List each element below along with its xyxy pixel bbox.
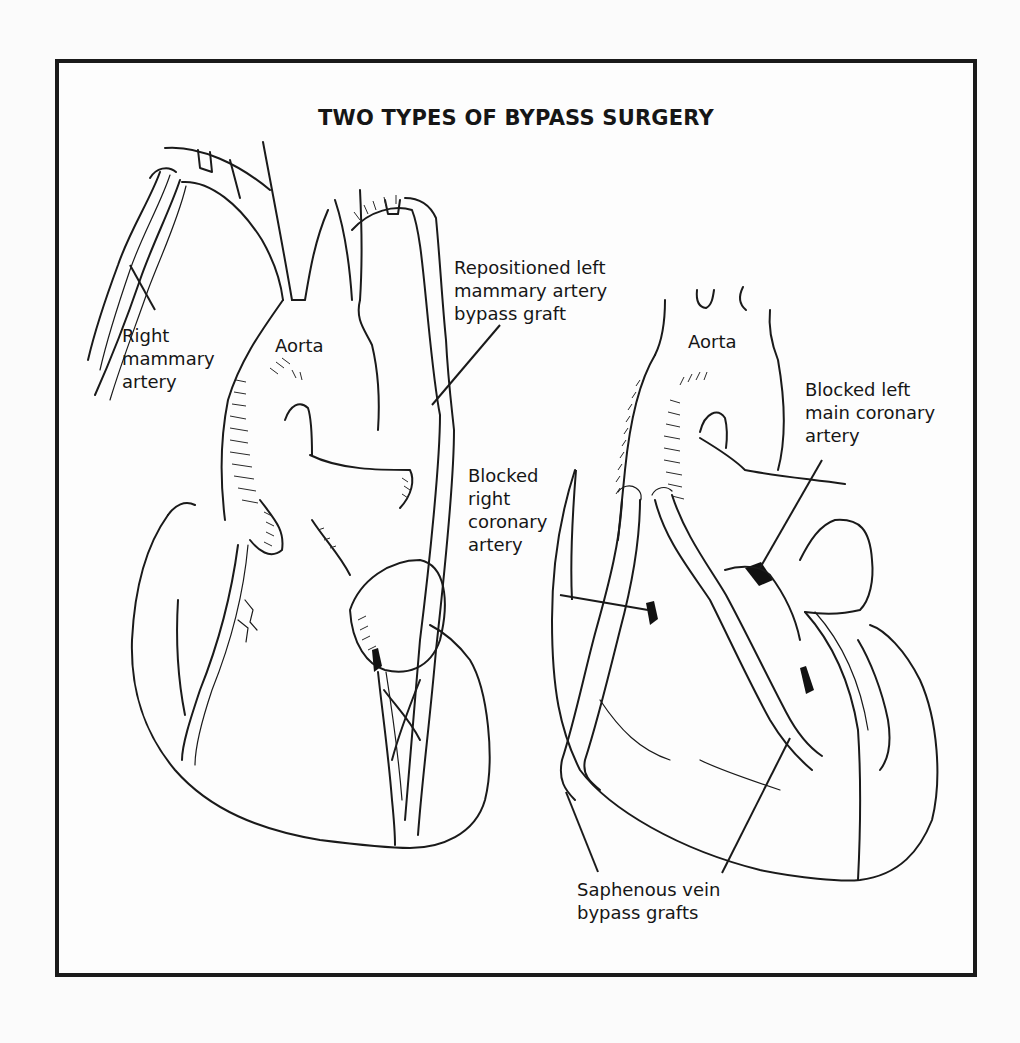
right-heart-drawing [552,287,937,881]
label-right-mammary-artery: Right mammary artery [122,324,215,393]
left-mammary-graft-drawing [352,195,454,835]
label-aorta-right: Aorta [688,330,737,353]
leader-saphenous-1 [566,792,598,872]
leader-repositioned-graft [432,325,500,405]
left-heart-drawing [88,142,490,848]
label-blocked-right-coronary: Blocked right coronary artery [468,464,547,556]
label-saphenous-grafts: Saphenous vein bypass grafts [577,878,720,924]
label-repositioned-graft: Repositioned left mammary artery bypass … [454,256,607,325]
leader-saphenous-2 [722,738,790,873]
label-blocked-left-main: Blocked left main coronary artery [805,378,935,447]
label-aorta-left: Aorta [275,334,324,357]
